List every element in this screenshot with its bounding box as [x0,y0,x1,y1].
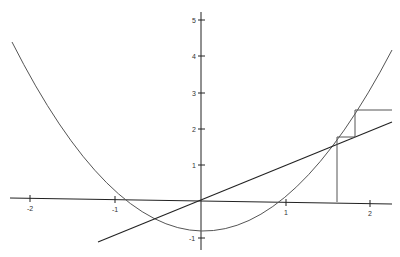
diagonal-line [98,122,392,242]
y-tick-label: 1 [192,162,196,169]
x-tick-label: -2 [27,205,33,212]
y-tick-label: 3 [192,90,196,97]
x-ticks: -2 -1 1 2 [27,195,372,217]
x-tick-label: 2 [368,210,372,217]
y-tick-label: 5 [192,17,196,24]
cobweb-path [337,110,392,202]
x-tick-label: 1 [284,209,288,216]
x-tick-label: -1 [112,206,118,213]
y-tick-label: -1 [189,235,195,242]
y-tick-label: 2 [192,126,196,133]
y-tick-label: 4 [192,53,196,60]
cobweb-plot: -2 -1 1 2 5 4 3 2 1 -1 [0,0,400,257]
y-ticks: 5 4 3 2 1 -1 [189,17,205,242]
